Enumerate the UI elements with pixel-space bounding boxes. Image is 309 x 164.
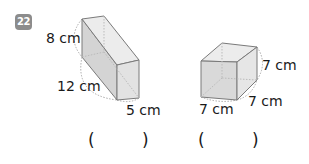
- cube-answer-close-paren: ): [252, 130, 259, 150]
- cuboid-length-label: 12 cm: [57, 78, 101, 94]
- cube-depth-label: 7 cm: [248, 93, 283, 109]
- cube-answer-open-paren: (: [198, 130, 205, 150]
- cuboid-height-label: 8 cm: [46, 30, 81, 46]
- cuboid-answer-close-paren: ): [142, 130, 149, 150]
- cuboid-width-label: 5 cm: [126, 102, 161, 118]
- cube-height-label: 7 cm: [262, 57, 297, 73]
- cube-width-label: 7 cm: [199, 101, 234, 117]
- solids-diagram: [0, 0, 309, 164]
- cuboid-answer-open-paren: (: [88, 130, 95, 150]
